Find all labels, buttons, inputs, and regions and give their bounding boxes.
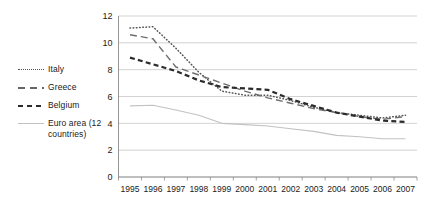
x-tick-2006: 2006 xyxy=(373,184,392,194)
chart-plot-area: 024681012 199519961997199819992000200120… xyxy=(0,0,427,209)
y-tick-8: 8 xyxy=(107,65,112,75)
x-tick-1995: 1995 xyxy=(121,184,140,194)
x-tick-2002: 2002 xyxy=(281,184,300,194)
x-tick-1996: 1996 xyxy=(143,184,162,194)
x-tick-2000: 2000 xyxy=(235,184,254,194)
data-series-group xyxy=(130,27,406,139)
y-tick-2: 2 xyxy=(107,145,112,155)
x-tick-2001: 2001 xyxy=(258,184,277,194)
gridlines-group xyxy=(119,16,418,177)
x-tick-2004: 2004 xyxy=(327,184,346,194)
x-axis-tick-labels: 1995199619971998199920002001200220032004… xyxy=(121,184,416,194)
y-tick-6: 6 xyxy=(107,92,112,102)
series-line-italy xyxy=(130,27,406,118)
series-line-greece xyxy=(130,35,406,120)
line-chart-figure: Italy Greece Belgium Euro area (12 count… xyxy=(0,0,427,209)
x-tick-2003: 2003 xyxy=(304,184,323,194)
x-tick-2007: 2007 xyxy=(396,184,415,194)
x-tick-1998: 1998 xyxy=(189,184,208,194)
y-axis-tick-labels: 024681012 xyxy=(102,11,112,182)
y-tick-0: 0 xyxy=(107,172,112,182)
y-tick-4: 4 xyxy=(107,119,112,129)
y-tick-12: 12 xyxy=(102,11,112,21)
x-tick-2005: 2005 xyxy=(350,184,369,194)
series-line-euro xyxy=(130,105,406,139)
x-tick-1997: 1997 xyxy=(166,184,185,194)
series-line-belgium xyxy=(130,58,406,122)
x-tick-1999: 1999 xyxy=(212,184,231,194)
y-tick-10: 10 xyxy=(102,38,112,48)
